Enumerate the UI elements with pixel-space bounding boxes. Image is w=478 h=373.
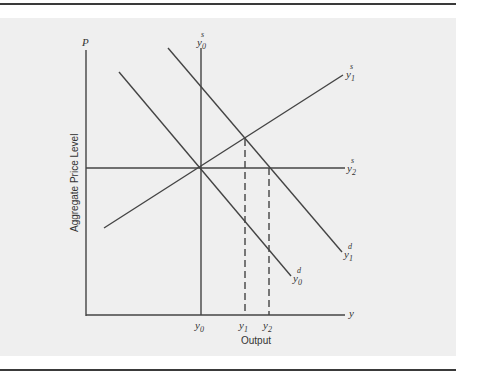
y1-supply-label: y1s [346, 66, 353, 83]
x-tick-y2: y2 [263, 319, 272, 334]
y1-supply-line [104, 75, 343, 228]
price-axis-symbol: P [82, 36, 89, 48]
x-tick-y0: y0 [195, 319, 204, 334]
y0-demand-line [119, 72, 291, 276]
y-axis-title: Aggregate Price Level [69, 134, 80, 232]
output-axis-symbol: y [349, 307, 354, 319]
y2-supply-label: y2s [347, 160, 354, 177]
y0-supply-label: y0s [197, 34, 204, 51]
x-axis-title: Output [241, 335, 271, 346]
y1-demand-label: y1d [344, 246, 352, 263]
y0-demand-label: y0d [293, 270, 301, 287]
y1-demand-line [168, 48, 342, 252]
x-tick-y1: y1 [239, 319, 248, 334]
